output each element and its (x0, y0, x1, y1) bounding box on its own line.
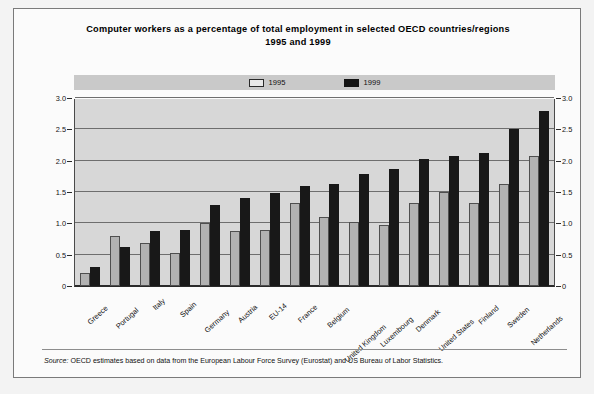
bar-group (225, 99, 255, 286)
bar-1995 (469, 203, 479, 286)
bar-1995 (409, 203, 419, 286)
y-axis-left: 00.51.01.52.02.53.0 (36, 99, 66, 287)
x-axis-label-text: Sweden (506, 306, 531, 330)
chart-title-line-2: 1995 and 1999 (34, 36, 562, 49)
figure-canvas: Computer workers as a percentage of tota… (0, 0, 594, 394)
x-axis-label-text: Austria (237, 303, 259, 324)
y-tick-label: 1.5 (56, 189, 66, 197)
legend-entry-1995: 1995 (249, 79, 286, 87)
x-axis-label-text: United States (437, 318, 475, 354)
x-axis-labels: GreecePortugalItalySpainGermanyAustriaEU… (74, 288, 555, 346)
bar-group (524, 99, 554, 286)
y-tick-label: 2.5 (562, 126, 572, 134)
y-tick-mark (556, 129, 561, 130)
bar-1995 (230, 231, 240, 286)
y-tick-mark (556, 161, 561, 162)
bar-1995 (80, 273, 90, 286)
bar-group (404, 99, 434, 286)
legend-swatch-1999-icon (344, 79, 359, 87)
bar-1995 (260, 230, 270, 286)
y-axis-right: 00.51.01.52.02.53.0 (562, 99, 592, 287)
bars-layer (75, 99, 554, 286)
bar-group (374, 99, 404, 286)
x-axis-label: Italy (162, 288, 177, 303)
x-axis-label-text: Netherlands (530, 315, 565, 348)
bar-1999 (240, 198, 250, 286)
x-axis-label: Belgium (345, 288, 370, 312)
bar-group (285, 99, 315, 286)
bar-1995 (110, 236, 120, 286)
bar-group (165, 99, 195, 286)
bar-1995 (439, 192, 449, 286)
source-keyword: Source: (44, 357, 68, 365)
bar-1999 (389, 169, 399, 286)
x-axis-label-text: Spain (179, 301, 198, 320)
bar-1995 (499, 184, 509, 286)
y-tick-label: 2.0 (56, 158, 66, 166)
y-tick-mark (67, 98, 72, 99)
bar-1999 (509, 129, 519, 286)
legend-label-1995: 1995 (269, 79, 286, 87)
source-divider (42, 349, 567, 350)
y-tick-label: 0 (62, 283, 66, 291)
y-tick-label: 1.5 (562, 189, 572, 197)
bar-1999 (270, 193, 280, 286)
bar-1999 (90, 267, 100, 286)
bar-group (75, 99, 105, 286)
bar-1995 (200, 223, 210, 286)
bar-group (135, 99, 165, 286)
bar-1995 (529, 156, 539, 286)
y-tick-mark (67, 192, 72, 193)
x-axis-label: Greece (104, 288, 127, 310)
bar-1999 (479, 153, 489, 286)
x-axis-label-text: Belgium (326, 306, 351, 330)
source-note: Source: OECD estimates based on data fro… (44, 357, 574, 366)
bar-1999 (180, 230, 190, 286)
y-tick-mark (556, 286, 561, 287)
bar-1999 (419, 159, 429, 286)
bar-group (434, 99, 464, 286)
y-tick-label: 0 (562, 283, 566, 291)
bar-group (105, 99, 135, 286)
bar-1999 (539, 111, 549, 286)
chart-title-line-1: Computer workers as a percentage of tota… (34, 23, 562, 36)
plot-area (74, 99, 555, 287)
y-tick-label: 0.5 (56, 252, 66, 260)
bar-group (255, 99, 285, 286)
legend-entry-1999: 1999 (344, 79, 381, 87)
bar-1995 (349, 222, 359, 286)
bar-group (315, 99, 345, 286)
x-axis-label: Sweden (526, 288, 551, 312)
bar-1999 (329, 184, 339, 286)
bar-group (494, 99, 524, 286)
x-axis-label: France (314, 288, 336, 309)
y-tick-label: 3.0 (562, 95, 572, 103)
x-axis-label: EU-14 (284, 288, 305, 308)
bar-1995 (379, 225, 389, 286)
legend-items: 1995 1999 (74, 75, 555, 90)
x-axis-label: Netherlands (559, 288, 594, 321)
bar-1999 (359, 174, 369, 286)
chart-title: Computer workers as a percentage of tota… (34, 23, 562, 48)
bar-1995 (170, 253, 180, 286)
y-tick-mark (556, 192, 561, 193)
bar-1995 (290, 203, 300, 286)
bar-group (464, 99, 494, 286)
y-tick-mark (556, 98, 561, 99)
y-tick-label: 1.0 (56, 220, 66, 228)
y-tick-label: 2.0 (562, 158, 572, 166)
y-tick-mark (67, 286, 72, 287)
x-axis-label: Austria (254, 288, 276, 309)
chart-frame: Computer workers as a percentage of tota… (13, 8, 581, 378)
y-tick-label: 3.0 (56, 95, 66, 103)
bar-1999 (120, 247, 130, 286)
x-axis-label-text: France (297, 303, 319, 324)
bar-1999 (300, 186, 310, 286)
chart-legend: 1995 1999 (74, 75, 555, 90)
y-tick-mark (67, 255, 72, 256)
bar-1995 (319, 217, 329, 286)
bar-group (195, 99, 225, 286)
bar-1995 (140, 243, 150, 286)
y-tick-mark (67, 129, 72, 130)
gridline (75, 97, 554, 98)
